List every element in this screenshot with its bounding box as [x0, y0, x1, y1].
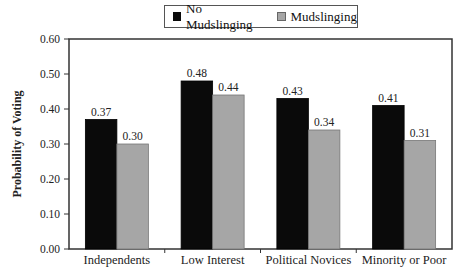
x-tick-label: Political Novices: [266, 253, 352, 267]
bar-no-mudslinging: [181, 81, 213, 249]
bar-value-label: 0.37: [91, 106, 111, 118]
bar-value-label: 0.41: [378, 92, 398, 104]
x-tick-label: Independents: [84, 253, 151, 267]
x-tick-label: Low Interest: [181, 253, 245, 267]
bar-value-label: 0.43: [283, 85, 303, 97]
y-tick-label: 0.40: [40, 103, 60, 115]
x-tick-label: Minority or Poor: [362, 253, 448, 267]
y-tick-label: 0.20: [40, 173, 60, 185]
bar-no-mudslinging: [85, 120, 117, 250]
bar-mudslinging: [404, 141, 436, 250]
y-tick-label: 0.50: [40, 68, 60, 80]
bar-value-label: 0.34: [314, 116, 334, 128]
bar-no-mudslinging: [277, 99, 309, 250]
y-tick-label: 0.60: [40, 33, 60, 45]
bar-chart: 0.000.100.200.300.400.500.60Probability …: [0, 0, 471, 273]
bar-value-label: 0.31: [410, 127, 430, 139]
bar-value-label: 0.48: [187, 67, 207, 79]
y-axis-label: Probability of Voting: [10, 90, 24, 197]
bar-value-label: 0.44: [218, 81, 238, 93]
bar-mudslinging: [213, 95, 245, 249]
y-tick-label: 0.00: [40, 243, 60, 255]
y-tick-label: 0.10: [40, 208, 60, 220]
bar-mudslinging: [308, 130, 340, 249]
y-tick-label: 0.30: [40, 138, 60, 150]
bar-value-label: 0.30: [123, 130, 143, 142]
bar-no-mudslinging: [373, 106, 405, 250]
bar-mudslinging: [117, 144, 149, 249]
